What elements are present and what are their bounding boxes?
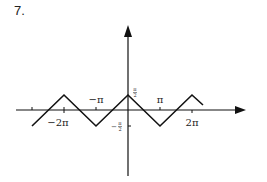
triangle-wave-chart: −2π −π π 2π π 2 − π 2 [0,0,267,182]
y-axis [124,25,132,176]
svg-text:−: − [111,123,117,131]
x-axis-arrow-icon [235,106,246,114]
x-tick-label-pi: π [157,94,164,105]
x-tick-label-neg-2pi: −2π [47,117,69,128]
x-tick-label-2pi: 2π [186,117,199,128]
y-tick-label-neg-half-pi: − π 2 [111,120,122,132]
svg-text:2: 2 [118,126,121,132]
y-axis-arrow-icon [124,25,132,37]
svg-text:2: 2 [133,92,136,98]
y-tick-label-half-pi: π 2 [133,86,137,98]
x-tick-label-neg-pi: −π [89,94,104,105]
